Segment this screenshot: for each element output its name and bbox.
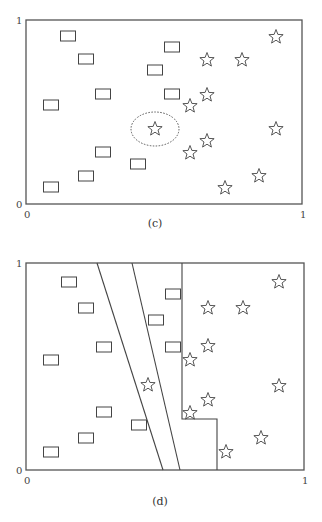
star-icon xyxy=(236,301,250,315)
rectangle-marker xyxy=(148,65,163,75)
panel-caption: (d) xyxy=(152,495,168,508)
star-icon xyxy=(272,379,286,393)
x-tick-right: 1 xyxy=(300,209,306,220)
rectangle-marker xyxy=(97,342,112,352)
star-icon xyxy=(269,122,283,136)
rectangle-marker xyxy=(165,42,180,52)
rectangle-marker xyxy=(132,420,147,430)
x-tick-left: 0 xyxy=(24,475,30,486)
star-icon xyxy=(272,275,286,289)
star-icon xyxy=(219,445,233,459)
rectangle-marker xyxy=(44,182,59,192)
star-icon xyxy=(183,406,197,420)
star-icon xyxy=(183,146,197,160)
star-icon xyxy=(201,301,215,315)
figure-canvas: 1001(c) 1001(d) xyxy=(0,0,322,522)
rectangle-marker xyxy=(165,89,180,99)
rectangle-marker xyxy=(44,355,59,365)
rectangle-marker xyxy=(79,433,94,443)
rectangle-marker xyxy=(97,407,112,417)
panel-d: 1001(d) xyxy=(16,258,308,508)
panel-c: 1001(c) xyxy=(16,15,306,230)
rectangle-marker xyxy=(131,159,146,169)
rectangle-marker xyxy=(44,447,59,457)
stepwise-boundary xyxy=(182,263,217,470)
linear-boundary-1 xyxy=(97,263,163,470)
star-icon xyxy=(254,431,268,445)
x-tick-right: 1 xyxy=(302,475,308,486)
panel-caption: (c) xyxy=(148,217,163,230)
star-icon xyxy=(141,378,155,392)
star-icon xyxy=(183,353,197,367)
rectangle-marker xyxy=(44,100,59,110)
star-icon xyxy=(200,88,214,102)
y-tick-bottom: 0 xyxy=(16,465,22,476)
star-icon xyxy=(252,169,266,183)
x-tick-left: 0 xyxy=(24,209,30,220)
star-icon xyxy=(183,99,197,113)
rectangle-marker xyxy=(62,277,77,287)
rectangle-marker xyxy=(166,289,181,299)
star-icon xyxy=(200,134,214,148)
star-icon xyxy=(201,339,215,353)
star-icon xyxy=(218,181,232,195)
y-tick-top: 1 xyxy=(16,258,22,269)
star-icon xyxy=(148,122,162,136)
rectangle-marker xyxy=(96,147,111,157)
rectangle-marker xyxy=(61,31,76,41)
rectangle-marker xyxy=(79,303,94,313)
rectangle-marker xyxy=(96,89,111,99)
star-icon xyxy=(269,30,283,44)
star-icon xyxy=(201,393,215,407)
rectangle-marker xyxy=(166,342,181,352)
y-tick-top: 1 xyxy=(16,15,22,26)
star-icon xyxy=(235,53,249,67)
rectangle-marker xyxy=(79,54,94,64)
y-tick-bottom: 0 xyxy=(16,199,22,210)
rectangle-marker xyxy=(79,171,94,181)
rectangle-marker xyxy=(149,315,164,325)
star-icon xyxy=(200,53,214,67)
